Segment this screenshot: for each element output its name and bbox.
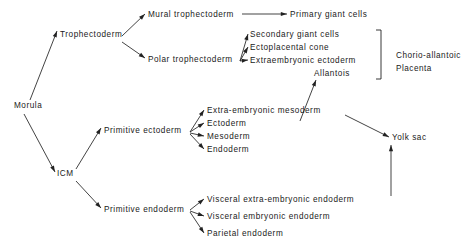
arrow-head (199, 227, 206, 234)
edge-prim-ecto-to-ectoderm (190, 121, 205, 132)
edge-line (76, 128, 101, 169)
arrow-head (197, 212, 204, 218)
chorio-allantoic-bracket (376, 30, 381, 79)
node-label-parietal_endo: Parietal endoderm (207, 229, 283, 238)
edge-visc-extra-endo-to-yolk-sac (389, 145, 393, 196)
edge-prim-endo-to-visc-emb-endo (190, 211, 205, 218)
node-label-primary_giant: Primary giant cells (290, 10, 367, 19)
edge-extraemb-meso-to-yolk-sac (345, 115, 390, 139)
arrow-head (383, 132, 390, 139)
arrow-head (50, 166, 57, 173)
node-label-extraemb_ecto: Extraembryonic ectoderm (250, 56, 356, 65)
node-label-mural: Mural trophectoderm (148, 10, 234, 19)
edge-icm-to-prim-ectoderm (76, 127, 103, 169)
lineage-diagram-canvas: MorulaTrophectodermICMMural trophectoder… (0, 0, 464, 250)
node-label-prim_endo: Primitive endoderm (104, 205, 184, 214)
edge-trophectoderm-to-polar (122, 42, 146, 60)
node-label-visc_emb_endo: Visceral embryonic endoderm (207, 212, 330, 221)
arrow-head (139, 53, 146, 60)
bracket-layer (376, 30, 381, 79)
node-label-trophectoderm: Trophectoderm (60, 30, 122, 39)
edge-morula-to-icm (24, 114, 57, 173)
node-label-allantois: Allantois (314, 69, 350, 78)
edge-icm-to-prim-endoderm (76, 181, 103, 209)
node-label-mesoderm: Mesoderm (207, 132, 250, 141)
group-label-chorio_allantoic: Chorio-allantoicPlacenta (396, 51, 461, 73)
arrow-head (199, 109, 206, 116)
node-label-morula: Morula (14, 101, 42, 110)
edge-prim-ecto-to-extraemb-meso (190, 109, 206, 132)
node-label-visc_extra_endo: Visceral extra-embryonic endoderm (207, 195, 354, 204)
arrow-head (197, 133, 204, 138)
node-label-ectoplacental: Ectoplacental cone (250, 43, 329, 52)
node-label-polar: Polar trophectoderm (148, 55, 233, 64)
node-label-prim_ecto: Primitive ectoderm (104, 126, 182, 135)
node-label-endoderm: Endoderm (207, 145, 249, 154)
edge-polar-to-secondary-giant (240, 33, 250, 61)
node-label-secondary_giant: Secondary giant cells (250, 30, 339, 39)
arrow-head (96, 127, 103, 134)
edge-line (345, 115, 389, 137)
arrow-head (389, 145, 393, 151)
node-label-icm: ICM (57, 169, 74, 178)
node-label-extraemb_meso: Extra-embryonic mesoderm (207, 106, 321, 115)
edge-trophectoderm-to-mural (122, 12, 146, 36)
arrow-head (281, 12, 287, 16)
lineage-diagram: MorulaTrophectodermICMMural trophectoder… (0, 0, 464, 250)
node-label-yolk_sac: Yolk sac (392, 133, 427, 142)
edge-line (24, 114, 55, 172)
edge-mural-to-primary-giant (242, 12, 287, 16)
edge-polar-to-ectoplacental (240, 46, 250, 61)
arrow-head (198, 121, 205, 128)
group-labels-layer: Chorio-allantoicPlacenta (396, 51, 461, 73)
node-label-ectoderm: Ectoderm (207, 119, 246, 128)
node-labels-layer: MorulaTrophectodermICMMural trophectoder… (14, 10, 427, 238)
arrow-head (312, 79, 318, 86)
edge-morula-to-trophectoderm (30, 30, 59, 100)
edge-line (30, 31, 57, 100)
edge-prim-endo-to-visc-extra-endo (190, 197, 205, 210)
edge-prim-ecto-to-mesoderm (190, 133, 204, 138)
arrow-head (53, 30, 59, 37)
